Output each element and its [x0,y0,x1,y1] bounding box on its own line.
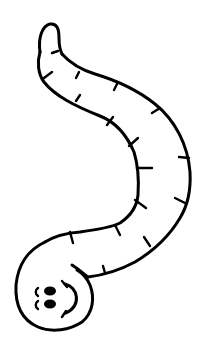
worm-face [36,281,77,317]
worm-body-outline [38,24,190,277]
right-eye-icon [36,300,56,310]
worm-drawing [0,0,212,356]
left-eye-icon [36,287,56,297]
smile-mouth [65,284,76,313]
worm-head [16,242,93,330]
segment-marks [44,51,189,273]
